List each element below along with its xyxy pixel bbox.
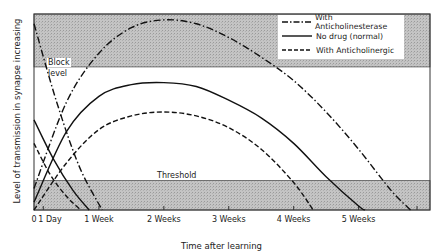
- legend: With Anticholinesterase No drug (normal)…: [278, 15, 404, 59]
- y-axis-label: Level of transmission in synapse increas…: [12, 1, 24, 221]
- block-level-label-line2: level: [48, 69, 67, 78]
- legend-label: With Anticholinesterase: [315, 13, 404, 31]
- threshold-label: Threshold: [157, 171, 196, 180]
- x-tick-label: 0: [31, 215, 36, 224]
- x-axis-label: Time after learning: [0, 241, 443, 251]
- legend-label: With Anticholinergic: [316, 46, 394, 55]
- legend-item-anticholinesterase: With Anticholinesterase: [278, 15, 404, 29]
- x-tick-label: 1 Day: [38, 215, 61, 224]
- dashed-line-icon: [282, 47, 312, 53]
- x-tick-label: 2 Weeks: [147, 215, 181, 224]
- legend-item-anticholinergic: With Anticholinergic: [278, 43, 404, 57]
- x-tick-label: 1 Week: [84, 215, 114, 224]
- solid-line-icon: [282, 33, 312, 39]
- dash-dot-line-icon: [282, 19, 311, 25]
- x-tick-label: 4 Weeks: [277, 215, 311, 224]
- legend-item-no-drug: No drug (normal): [278, 29, 404, 43]
- x-tick-label: 3 Weeks: [212, 215, 246, 224]
- x-tick-label: 5 Weeks: [342, 215, 376, 224]
- legend-label: No drug (normal): [316, 32, 383, 41]
- block-level-label-line1: Block: [47, 58, 71, 67]
